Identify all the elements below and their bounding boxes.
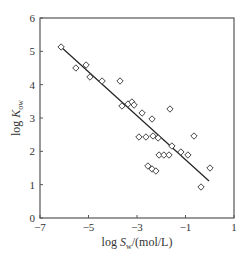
diamond-marker	[99, 78, 105, 84]
diamond-marker	[143, 134, 149, 140]
diamond-marker	[167, 106, 173, 112]
diamond-marker	[149, 116, 155, 122]
y-tick-label: 5	[30, 45, 36, 57]
scatter-chart: −7−5−3−11 0123456 log Sw/(mol/L) log Kow	[0, 0, 248, 256]
diamond-marker	[117, 78, 123, 84]
diamond-marker	[198, 184, 204, 190]
diamond-marker	[185, 152, 191, 158]
x-tick-label: −7	[34, 221, 46, 233]
x-tick-label: −5	[83, 221, 95, 233]
y-axis-ticks: 0123456	[30, 12, 44, 224]
x-tick-label: −3	[131, 221, 143, 233]
diamond-marker	[207, 165, 213, 171]
y-axis-label: log Kow	[9, 100, 25, 136]
y-tick-label: 3	[30, 112, 36, 124]
plot-frame	[40, 18, 234, 218]
diamond-marker	[169, 143, 175, 149]
diamond-marker	[191, 133, 197, 139]
x-tick-label: −1	[180, 221, 192, 233]
diamond-marker	[166, 152, 172, 158]
diamond-marker	[139, 110, 145, 116]
x-tick-label: 1	[231, 221, 237, 233]
x-axis-label: log Sw/(mol/L)	[102, 235, 173, 251]
y-tick-label: 6	[30, 12, 36, 24]
diamond-marker	[136, 134, 142, 140]
y-tick-label: 4	[30, 79, 36, 91]
diamond-marker	[73, 65, 79, 71]
y-tick-label: 2	[30, 145, 36, 157]
y-tick-label: 0	[30, 212, 36, 224]
regression-line	[61, 47, 209, 181]
y-tick-label: 1	[30, 179, 36, 191]
